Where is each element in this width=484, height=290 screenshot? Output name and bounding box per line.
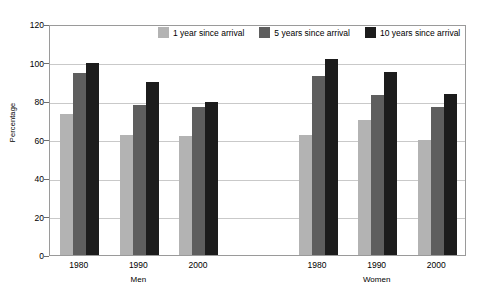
bar xyxy=(205,102,218,255)
bar xyxy=(146,82,159,255)
x-axis-tick-label: 1990 xyxy=(367,260,386,270)
bar xyxy=(179,136,192,255)
y-axis-tick-label: 40 xyxy=(14,174,44,184)
legend-item: 5 years since arrival xyxy=(259,27,350,38)
x-axis-tick-label: 1980 xyxy=(308,260,327,270)
legend-label: 5 years since arrival xyxy=(274,28,350,38)
bar xyxy=(60,114,73,255)
legend-label: 10 years since arrival xyxy=(380,28,460,38)
legend-label: 1 year since arrival xyxy=(173,28,244,38)
y-axis-title: Percentage xyxy=(8,83,17,163)
bar xyxy=(133,105,146,255)
bar xyxy=(358,120,371,255)
bar xyxy=(73,73,86,255)
legend-swatch-icon xyxy=(365,27,376,38)
bar xyxy=(120,135,133,255)
x-axis-tick-label: 1980 xyxy=(69,260,88,270)
bar-chart: Percentage 1 year since arrival5 years s… xyxy=(0,0,484,290)
legend-swatch-icon xyxy=(158,27,169,38)
bar xyxy=(384,72,397,255)
y-axis-tick-label: 60 xyxy=(14,136,44,146)
bar xyxy=(371,95,384,255)
bar xyxy=(192,107,205,255)
plot-area xyxy=(49,25,466,256)
legend-item: 10 years since arrival xyxy=(365,27,460,38)
bar xyxy=(299,135,312,255)
bar xyxy=(86,63,99,256)
y-axis-tick-label: 100 xyxy=(14,59,44,69)
legend-swatch-icon xyxy=(259,27,270,38)
bar xyxy=(325,59,338,255)
legend-item: 1 year since arrival xyxy=(158,27,244,38)
legend: 1 year since arrival5 years since arriva… xyxy=(158,27,460,38)
x-axis-group-label: Women xyxy=(363,275,390,284)
y-axis-tick-label: 20 xyxy=(14,213,44,223)
bar xyxy=(312,76,325,255)
bar xyxy=(418,140,431,255)
bar xyxy=(444,94,457,255)
y-axis-tick-label: 80 xyxy=(14,97,44,107)
bar xyxy=(431,107,444,255)
x-axis-tick-label: 2000 xyxy=(188,260,207,270)
x-axis-group-label: Men xyxy=(131,275,147,284)
y-axis-tick-label: 0 xyxy=(14,251,44,261)
bars-layer xyxy=(50,26,465,255)
y-axis-tick-label: 120 xyxy=(14,20,44,30)
x-axis-tick-label: 1990 xyxy=(129,260,148,270)
x-axis-tick-label: 2000 xyxy=(427,260,446,270)
